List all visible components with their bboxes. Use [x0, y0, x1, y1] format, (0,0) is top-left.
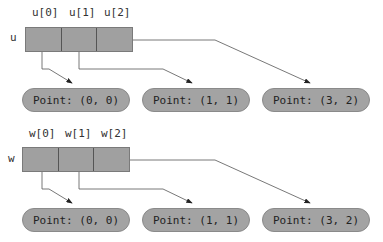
index-label-u1: u[1]: [69, 6, 96, 19]
array-cell-w2: [94, 148, 129, 171]
point-object-w2: Point: (3, 2): [262, 208, 370, 232]
variable-name-u: u: [10, 31, 17, 44]
index-label-u0: u[0]: [32, 6, 59, 19]
variable-name-w: w: [8, 152, 15, 165]
point-object-w0: Point: (0, 0): [22, 208, 130, 232]
array-cell-u2: [97, 28, 132, 51]
array-u: [25, 27, 133, 52]
index-label-w2: w[2]: [101, 127, 128, 140]
point-object-w1: Point: (1, 1): [142, 208, 250, 232]
array-cell-u0: [26, 28, 62, 51]
array-cell-w1: [59, 148, 95, 171]
point-object-u0: Point: (0, 0): [22, 88, 130, 112]
index-label-u2: u[2]: [104, 6, 131, 19]
array-cell-w0: [23, 148, 59, 171]
point-object-u1: Point: (1, 1): [142, 88, 250, 112]
index-label-w1: w[1]: [65, 127, 92, 140]
index-label-w0: w[0]: [29, 127, 56, 140]
array-w: [22, 147, 130, 172]
point-object-u2: Point: (3, 2): [262, 88, 370, 112]
array-cell-u1: [62, 28, 98, 51]
